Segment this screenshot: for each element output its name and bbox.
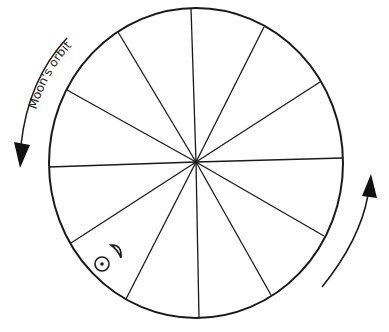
spoke [191,8,196,162]
spoke [196,162,271,295]
spoke [126,162,196,299]
wheel-spokes [49,8,343,318]
spoke [196,27,264,162]
spoke [196,162,199,318]
rotation-arrowhead-icon [362,174,377,198]
spoke [67,90,196,162]
crescent-moon-icon [111,245,121,258]
moon-orbit-label: Moon's orbit [26,38,75,111]
spoke [196,82,320,162]
spoke [71,162,196,243]
spoke [118,32,196,162]
zodiac-wheel-diagram: Moon's orbit [0,0,389,332]
moon-orbit-arrowhead-icon [14,142,30,168]
spoke [49,162,196,167]
sun-symbol-icon [95,257,109,271]
rotation-arrow [322,195,368,287]
spoke [196,158,343,162]
spoke [196,162,324,236]
